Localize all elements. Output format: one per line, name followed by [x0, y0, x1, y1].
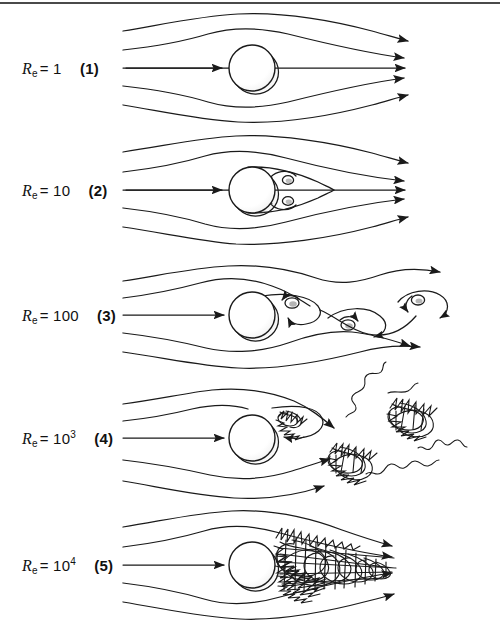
squiggle-trail-bottom	[366, 460, 439, 474]
streamline	[123, 95, 408, 122]
flow-diagram	[0, 0, 500, 634]
sphere	[229, 415, 279, 464]
flow-row-re-10000	[123, 511, 396, 620]
streamlines-row-3	[123, 266, 440, 369]
sphere	[229, 292, 279, 341]
streamline	[123, 279, 310, 306]
flow-row-re-1000	[123, 362, 467, 498]
turbulent-wake	[274, 528, 396, 603]
streamline	[123, 459, 330, 478]
turbulent-blob-upper-right	[387, 398, 437, 441]
streamline	[123, 217, 408, 244]
streamline	[123, 14, 408, 41]
turbulent-blob-near	[276, 411, 307, 440]
streamline	[123, 136, 408, 163]
streamline	[123, 405, 248, 421]
streamline	[123, 481, 324, 498]
turbulent-blob-mid	[327, 443, 377, 485]
squiggle-trail-right	[418, 440, 467, 450]
flow-row-re-10	[123, 136, 408, 245]
streamline	[123, 346, 420, 368]
vortex-shed-upper-right	[398, 291, 448, 318]
flow-row-re-100	[123, 266, 448, 369]
flow-row-re-1	[123, 14, 408, 123]
streamline	[123, 594, 394, 619]
streamlines-row-4	[123, 389, 334, 498]
figure-canvas: Re= 1 (1) Re= 10 (2) Re= 100 (3) Re= 103…	[0, 0, 500, 634]
sphere	[229, 45, 279, 94]
streamline	[123, 266, 440, 283]
sphere	[229, 542, 279, 591]
sphere	[229, 167, 279, 216]
